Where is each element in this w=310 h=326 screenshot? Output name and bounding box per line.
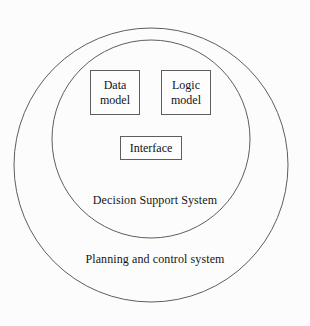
diagram-canvas: Data model Logic model Interface Decisio… (0, 0, 310, 326)
diagram-rings (0, 0, 310, 326)
inner-ring-label: Decision Support System (0, 193, 310, 207)
box-data-model-label: Data model (97, 78, 133, 108)
box-interface-label: Interface (127, 141, 176, 156)
box-data-model[interactable]: Data model (90, 70, 140, 115)
box-interface[interactable]: Interface (120, 136, 182, 160)
outer-ring-label: Planning and control system (0, 252, 310, 266)
box-logic-model-label: Logic model (168, 78, 204, 108)
box-logic-model[interactable]: Logic model (161, 70, 211, 115)
